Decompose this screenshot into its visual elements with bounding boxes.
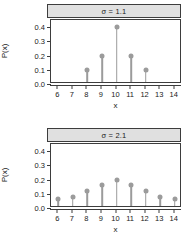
data-point-bottom — [172, 197, 177, 202]
data-point-bottom — [56, 197, 61, 202]
x-axis-tick-label-top: 11 — [126, 90, 134, 99]
y-axis-tick-top — [47, 41, 51, 42]
x-axis-tick-label-top: 9 — [99, 90, 103, 99]
data-point-bottom — [114, 177, 119, 182]
panel-sigma-2: σ = 2.1 P(x) 0.00.10.20.30.4 67891011121… — [0, 124, 185, 248]
plot-box-bottom: 0.00.10.20.30.4 — [50, 143, 181, 207]
y-axis-tick-bottom — [47, 165, 51, 166]
x-axis-tick-bottom — [57, 209, 58, 213]
x-axis-tick-top — [57, 85, 58, 89]
x-axis-tick-label-bottom: 11 — [126, 214, 134, 223]
data-point-bottom — [99, 183, 104, 188]
y-axis-tick-label-bottom: 0.0 — [35, 204, 45, 213]
x-axis-tick-bottom — [71, 209, 72, 213]
x-axis-tick-label-bottom: 13 — [155, 214, 163, 223]
data-point-bottom — [70, 194, 75, 199]
panel-strip-label-top: σ = 1.1 — [48, 5, 180, 17]
x-axis-tick-top — [71, 85, 72, 89]
x-axis-tick-top — [159, 85, 160, 89]
data-point-top — [114, 25, 119, 30]
x-axis-tick-bottom — [173, 209, 174, 213]
x-axis-tick-bottom — [159, 209, 160, 213]
x-axis-tick-label-bottom: 9 — [99, 214, 103, 223]
y-axis-tick-label-top: 0.0 — [35, 80, 45, 89]
y-axis-title-top: P(x) — [0, 44, 9, 59]
panel-sigma-1: σ = 1.1 P(x) 0.00.10.20.30.4 67891011121… — [0, 0, 185, 124]
x-axis-tick-bottom — [100, 209, 101, 213]
x-axis-tick-label-top: 10 — [111, 90, 119, 99]
x-axis-tick-bottom — [115, 209, 116, 213]
x-axis-tick-top — [100, 85, 101, 89]
data-point-top — [129, 53, 134, 58]
x-axis-tick-label-bottom: 7 — [70, 214, 74, 223]
plot-box-top: 0.00.10.20.30.4 — [50, 19, 181, 83]
data-point-bottom — [129, 183, 134, 188]
x-axis-tick-label-top: 12 — [140, 90, 148, 99]
y-axis-tick-label-top: 0.3 — [35, 37, 45, 46]
x-axis-tick-top — [86, 85, 87, 89]
x-axis-tick-label-bottom: 8 — [84, 214, 88, 223]
x-axis-tick-top — [173, 85, 174, 89]
x-axis-tick-label-bottom: 6 — [55, 214, 59, 223]
panel-strip-header-top: σ = 1.1 — [47, 4, 181, 18]
y-axis-tick-top — [47, 70, 51, 71]
x-axis-tick-top — [144, 85, 145, 89]
plot-area-bottom: 0.00.10.20.30.4 — [51, 144, 180, 206]
data-point-bottom — [143, 188, 148, 193]
x-axis-tick-label-top: 14 — [170, 90, 178, 99]
x-axis-tick-label-bottom: 12 — [140, 214, 148, 223]
data-point-top — [99, 53, 104, 58]
stem-plot-figure: σ = 1.1 P(x) 0.00.10.20.30.4 67891011121… — [0, 0, 185, 248]
y-axis-tick-label-bottom: 0.4 — [35, 147, 45, 156]
plot-area-top: 0.00.10.20.30.4 — [51, 20, 180, 82]
x-axis-tick-bottom — [86, 209, 87, 213]
x-axis-tick-label-top: 8 — [84, 90, 88, 99]
y-axis-tick-bottom — [47, 151, 51, 152]
y-axis-tick-label-bottom: 0.3 — [35, 161, 45, 170]
data-point-bottom — [158, 194, 163, 199]
data-point-top — [85, 67, 90, 72]
data-point-top — [143, 67, 148, 72]
y-axis-tick-label-bottom: 0.2 — [35, 175, 45, 184]
x-axis-tick-label-bottom: 14 — [170, 214, 178, 223]
y-axis-tick-top — [47, 27, 51, 28]
x-axis-tick-label-top: 7 — [70, 90, 74, 99]
y-axis-tick-bottom — [47, 194, 51, 195]
x-axis-tick-label-top: 6 — [55, 90, 59, 99]
x-axis-title-bottom: x — [50, 225, 181, 234]
x-axis-tick-top — [130, 85, 131, 89]
x-axis-top: 67891011121314 — [50, 85, 181, 86]
panel-strip-header-bottom: σ = 2.1 — [47, 128, 181, 142]
y-axis-title-bottom: P(x) — [0, 168, 9, 183]
x-axis-tick-bottom — [144, 209, 145, 213]
panel-strip-label-bottom: σ = 2.1 — [48, 129, 180, 141]
y-axis-tick-label-top: 0.4 — [35, 23, 45, 32]
x-axis-tick-label-bottom: 10 — [111, 214, 119, 223]
data-point-bottom — [85, 188, 90, 193]
x-axis-tick-bottom — [130, 209, 131, 213]
y-axis-tick-label-bottom: 0.1 — [35, 189, 45, 198]
y-axis-tick-top — [47, 56, 51, 57]
stem-top — [116, 25, 118, 82]
x-axis-tick-top — [115, 85, 116, 89]
x-axis-bottom: 67891011121314 — [50, 209, 181, 210]
x-axis-tick-label-top: 13 — [155, 90, 163, 99]
y-axis-tick-label-top: 0.1 — [35, 65, 45, 74]
x-axis-title-top: x — [50, 101, 181, 110]
y-axis-tick-bottom — [47, 180, 51, 181]
y-axis-tick-label-top: 0.2 — [35, 51, 45, 60]
